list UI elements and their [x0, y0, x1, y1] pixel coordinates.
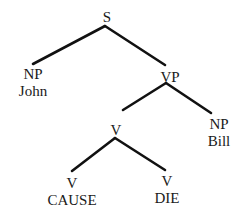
edge-v-v-die	[115, 138, 165, 170]
node-v-die: V	[162, 173, 173, 189]
tree-edges	[33, 26, 211, 171]
edge-vp-np	[166, 83, 211, 113]
node-s: S	[103, 9, 111, 25]
edge-vp-v	[123, 83, 166, 110]
edge-v-v-cause	[72, 138, 115, 171]
node-np-subject: NP	[23, 66, 42, 82]
node-v-cause: V	[67, 175, 78, 191]
word-cause: CAUSE	[47, 192, 96, 208]
edge-s-vp	[105, 26, 165, 65]
node-v-complex: V	[111, 122, 122, 138]
word-john: John	[19, 83, 48, 99]
node-np-object: NP	[209, 116, 228, 132]
edge-s-np	[33, 26, 105, 64]
node-vp: VP	[160, 69, 179, 85]
word-die: DIE	[155, 190, 180, 206]
syntax-tree: S NP John VP V NP Bill V CAUSE V DIE	[0, 0, 245, 217]
word-bill: Bill	[208, 133, 231, 149]
